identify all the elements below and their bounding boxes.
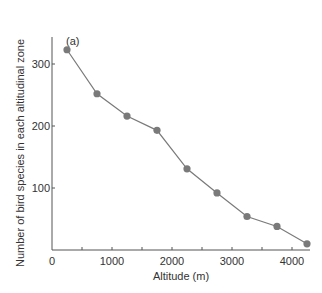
y-tick-label: 100 — [32, 182, 50, 194]
data-point — [213, 189, 220, 196]
y-axis-label: Number of bird species in each altitudin… — [14, 39, 26, 267]
x-tick-label: 4000 — [280, 255, 304, 267]
line-chart: 01000200030004000100200300Altitude (m)Nu… — [0, 0, 322, 293]
data-point — [63, 46, 70, 53]
data-point — [183, 165, 190, 172]
data-point — [243, 213, 250, 220]
x-tick-label: 3000 — [220, 255, 244, 267]
data-point — [93, 90, 100, 97]
x-tick-label: 0 — [49, 255, 55, 267]
panel-label: (a) — [66, 35, 79, 47]
data-point — [303, 240, 310, 247]
chart-figure: 01000200030004000100200300Altitude (m)Nu… — [0, 0, 322, 293]
data-point — [123, 112, 130, 119]
x-tick-label: 1000 — [100, 255, 124, 267]
x-axis-label: Altitude (m) — [153, 270, 209, 282]
y-tick-label: 300 — [32, 58, 50, 70]
data-line — [67, 50, 307, 244]
data-point — [153, 127, 160, 134]
y-tick-label: 200 — [32, 120, 50, 132]
data-point — [273, 223, 280, 230]
x-tick-label: 2000 — [160, 255, 184, 267]
